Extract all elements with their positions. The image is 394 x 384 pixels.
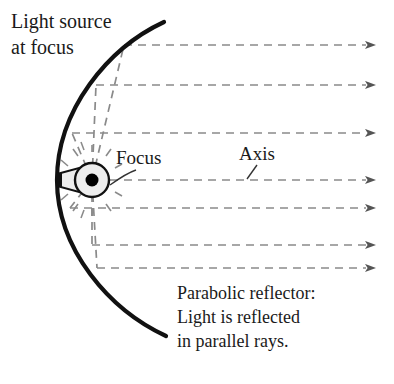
bulb-base-cap <box>57 173 62 187</box>
focus-label-pointer <box>110 170 136 185</box>
glow-dash <box>81 210 84 218</box>
glow-dash <box>73 149 78 156</box>
glow-dash <box>61 194 68 200</box>
light-source-label: Light source at focus <box>11 8 112 60</box>
light-bulb <box>57 163 109 197</box>
caption-label: Parabolic reflector: Light is reflected … <box>177 281 315 353</box>
glow-dash <box>106 204 111 211</box>
glow-dash <box>106 149 111 156</box>
glow-dash <box>81 142 84 150</box>
glow-dash <box>115 192 122 196</box>
axis-label-pointer <box>247 165 257 179</box>
glow-dash <box>61 160 68 166</box>
axis-label: Axis <box>239 142 275 167</box>
focus-point-dot <box>86 174 99 187</box>
parabolic-reflector-diagram: Light source at focus Focus Axis Parabol… <box>0 0 394 384</box>
focus-label: Focus <box>116 146 161 171</box>
parallel-rays-group <box>70 45 366 268</box>
